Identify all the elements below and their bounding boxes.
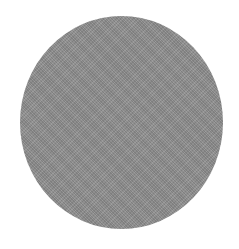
canvas (0, 0, 239, 249)
gray-circle (20, 16, 223, 229)
